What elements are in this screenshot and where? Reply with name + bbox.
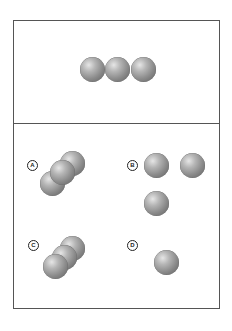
sphere (50, 160, 75, 185)
sphere (131, 57, 156, 82)
sphere (43, 254, 68, 279)
sphere (144, 191, 169, 216)
option-label-b: B (127, 160, 138, 171)
sphere (144, 153, 169, 178)
option-label-c: C (28, 240, 39, 251)
sphere (154, 250, 179, 275)
sphere (180, 153, 205, 178)
sphere (105, 57, 130, 82)
panel-divider (13, 123, 220, 124)
sphere (80, 57, 105, 82)
option-label-d: D (127, 240, 138, 251)
option-label-a: A (27, 160, 38, 171)
